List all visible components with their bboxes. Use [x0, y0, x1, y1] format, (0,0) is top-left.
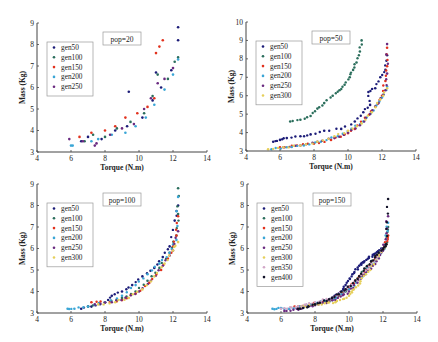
- legend-label: gen200: [270, 71, 292, 80]
- legend-marker: [262, 55, 265, 58]
- y-axis-label: Mass (Kg): [227, 69, 236, 103]
- panel-title: pop=100: [109, 196, 136, 205]
- legend: gen50gen100gen150gen200gen250gen300: [256, 41, 302, 105]
- legend-marker: [262, 65, 265, 68]
- figure-canvas: 4681012143456789Torque (N.m)Mass (Kg)pop…: [0, 0, 438, 342]
- legend-marker: [53, 246, 56, 249]
- legend: gen50gen100gen150gen200gen250gen300gen35…: [257, 203, 303, 286]
- y-axis-label: Mass (Kg): [228, 231, 237, 265]
- x-tick-label: 12: [169, 154, 177, 163]
- x-tick-label: 14: [412, 153, 420, 162]
- legend-label: gen150: [271, 224, 293, 233]
- x-tick-label: 6: [69, 154, 73, 163]
- legend-marker: [53, 217, 56, 220]
- legend-marker: [53, 85, 56, 88]
- x-tick-label: 10: [344, 153, 352, 162]
- chart-panel-pop-150: 4681012143456789Torque (N.m)Mass (Kg)pop…: [228, 180, 421, 334]
- legend-label: gen100: [61, 214, 83, 223]
- legend-marker: [53, 46, 56, 49]
- legend-label: gen100: [270, 52, 292, 61]
- x-axis-label: Torque (N.m): [309, 162, 353, 171]
- legend-marker: [53, 237, 56, 240]
- y-tick-label: 9: [240, 180, 244, 189]
- chart-panel-pop-20: 4681012143456789Torque (N.m)Mass (Kg)pop…: [18, 19, 211, 173]
- y-tick-label: 7: [240, 223, 244, 232]
- x-tick-label: 4: [245, 315, 249, 324]
- legend-label: gen250: [61, 243, 83, 252]
- y-tick-label: 6: [30, 244, 34, 253]
- y-tick-label: 9: [239, 36, 243, 45]
- chart-panel-pop-50: 468101214345678910Torque (N.m)Mass (Kg)p…: [227, 18, 420, 172]
- y-axis-label: Mass (Kg): [18, 70, 27, 104]
- y-tick-label: 3: [30, 148, 34, 157]
- panel-title: pop=20: [111, 35, 134, 44]
- legend-label: gen350: [271, 263, 293, 272]
- legend-marker: [263, 276, 266, 279]
- legend-marker: [262, 75, 265, 78]
- y-tick-label: 3: [30, 309, 34, 318]
- y-tick-label: 3: [239, 147, 243, 156]
- y-tick-label: 5: [240, 266, 244, 275]
- y-tick-label: 8: [30, 201, 34, 210]
- x-tick-label: 8: [313, 315, 317, 324]
- panel-title: pop=50: [320, 34, 343, 43]
- y-tick-label: 5: [30, 266, 34, 275]
- y-tick-label: 8: [240, 201, 244, 210]
- series-gen100: [297, 226, 390, 310]
- y-tick-label: 6: [240, 244, 244, 253]
- x-tick-label: 10: [135, 154, 143, 163]
- legend-label: gen100: [271, 214, 293, 223]
- x-tick-label: 8: [103, 315, 107, 324]
- legend-label: gen300: [271, 253, 293, 262]
- y-tick-label: 7: [30, 223, 34, 232]
- legend-label: gen200: [61, 72, 83, 81]
- x-axis-label: Torque (N.m): [100, 324, 144, 333]
- x-tick-label: 6: [279, 315, 283, 324]
- y-tick-label: 6: [239, 91, 243, 100]
- y-tick-label: 9: [30, 180, 34, 189]
- legend-marker: [53, 76, 56, 79]
- legend-label: gen200: [271, 233, 293, 242]
- x-tick-label: 4: [244, 153, 248, 162]
- y-tick-label: 7: [239, 73, 243, 82]
- legend-label: gen50: [270, 42, 288, 51]
- y-tick-label: 5: [239, 110, 243, 119]
- legend-label: gen250: [270, 81, 292, 90]
- y-tick-label: 8: [239, 54, 243, 63]
- legend-marker: [262, 94, 265, 97]
- legend-label: gen250: [61, 82, 83, 91]
- x-tick-label: 14: [203, 315, 211, 324]
- y-tick-label: 4: [30, 287, 34, 296]
- legend: gen50gen100gen150gen200gen250: [47, 42, 93, 96]
- figure: 4681012143456789Torque (N.m)Mass (Kg)pop…: [0, 0, 438, 342]
- legend-marker: [53, 66, 56, 69]
- legend-marker: [53, 207, 56, 210]
- y-tick-label: 8: [30, 40, 34, 49]
- legend-label: gen50: [61, 204, 79, 213]
- x-tick-label: 14: [203, 154, 211, 163]
- x-tick-label: 14: [413, 315, 421, 324]
- y-tick-label: 3: [240, 309, 244, 318]
- legend-marker: [53, 256, 56, 259]
- legend-label: gen250: [271, 243, 293, 252]
- legend-label: gen150: [61, 224, 83, 233]
- legend-label: gen200: [61, 233, 83, 242]
- legend-marker: [263, 256, 266, 259]
- legend-label: gen50: [61, 43, 79, 52]
- legend-marker: [263, 237, 266, 240]
- legend-marker: [263, 217, 266, 220]
- y-tick-label: 4: [240, 287, 244, 296]
- series-gen250: [94, 230, 180, 306]
- y-axis-label: Mass (Kg): [18, 231, 27, 265]
- legend: gen50gen100gen150gen200gen250gen300: [47, 203, 93, 267]
- series-gen50: [80, 204, 180, 310]
- legend-marker: [263, 246, 266, 249]
- y-tick-label: 5: [30, 105, 34, 114]
- y-tick-label: 6: [30, 83, 34, 92]
- legend-marker: [53, 56, 56, 59]
- x-tick-label: 4: [35, 154, 39, 163]
- x-tick-label: 12: [169, 315, 177, 324]
- panel-title: pop=150: [319, 196, 346, 205]
- y-tick-label: 4: [239, 128, 243, 137]
- x-axis-label: Torque (N.m): [310, 324, 354, 333]
